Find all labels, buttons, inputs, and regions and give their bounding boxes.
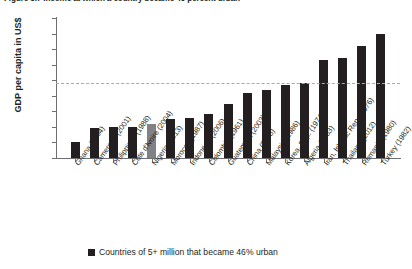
x-tick-mark <box>304 158 305 162</box>
x-tick-mark <box>132 158 133 162</box>
bar <box>166 119 175 158</box>
bar <box>90 128 99 158</box>
y-tick-mark <box>52 158 56 159</box>
y-tick-mark <box>52 18 56 19</box>
bar <box>357 46 366 158</box>
y-tick-mark <box>52 65 56 66</box>
bar <box>204 114 213 158</box>
x-tick-mark <box>75 158 76 162</box>
bar <box>185 118 194 158</box>
bar <box>71 142 80 158</box>
x-tick-mark <box>362 158 363 162</box>
bar <box>109 127 118 158</box>
x-tick-mark <box>94 158 95 162</box>
x-tick-mark <box>381 158 382 162</box>
y-tick-mark <box>52 34 56 35</box>
reference-line <box>56 83 400 84</box>
legend: Countries of 5+ million that became 46% … <box>88 247 278 257</box>
bar <box>338 58 347 158</box>
x-tick-mark <box>209 158 210 162</box>
x-tick-mark <box>228 158 229 162</box>
y-tick-mark <box>52 49 56 50</box>
y-tick-mark <box>52 127 56 128</box>
bar <box>128 127 137 158</box>
bar <box>281 85 290 158</box>
x-tick-mark <box>171 158 172 162</box>
legend-swatch-icon <box>88 249 95 256</box>
bar <box>224 104 233 158</box>
x-tick-mark <box>285 158 286 162</box>
bar <box>262 90 271 158</box>
bar <box>376 34 385 158</box>
y-tick-mark <box>52 111 56 112</box>
legend-label: Countries of 5+ million that became 46% … <box>99 247 278 257</box>
x-tick-mark <box>152 158 153 162</box>
bar <box>300 83 309 158</box>
bar <box>319 60 328 158</box>
x-tick-mark <box>324 158 325 162</box>
y-axis-title: GDP per capita in US$ <box>13 0 23 135</box>
x-tick-mark <box>266 158 267 162</box>
plot-area: 05001,0001,5002,0002,5003,0003,5004,0004… <box>56 18 400 158</box>
x-tick-mark <box>113 158 114 162</box>
x-tick-mark <box>247 158 248 162</box>
bar <box>147 124 156 158</box>
x-tick-mark <box>190 158 191 162</box>
x-tick-mark <box>343 158 344 162</box>
y-tick-mark <box>52 96 56 97</box>
y-tick-mark <box>52 80 56 81</box>
bar <box>243 93 252 158</box>
y-tick-mark <box>52 142 56 143</box>
figure-title: Figure 3.7 Income at which a country bec… <box>4 0 404 3</box>
